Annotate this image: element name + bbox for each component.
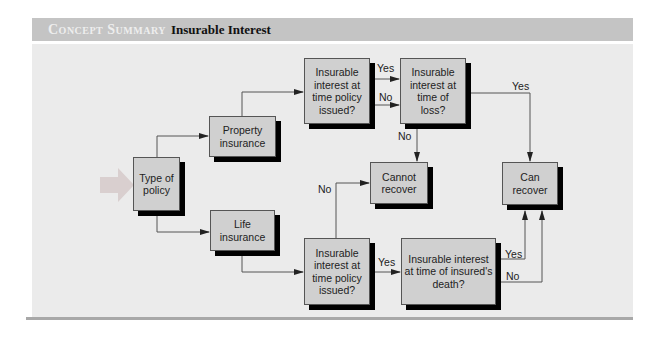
node-label: Insurable interest at time of insured's … [405,253,493,291]
node-label: Property insurance [214,124,272,149]
node-label: Insurable interest at time policy issued… [306,66,368,116]
node-type-of-policy: Type of policy [133,157,180,211]
node-property-issued: Insurable interest at time policy issued… [304,58,370,124]
node-life-insurance: Life insurance [210,210,275,251]
edge-label-prop-no: No [379,91,392,103]
node-label: Insurable interest at time policy issued… [306,247,368,297]
edge-label-life-yes: Yes [378,256,395,268]
node-label: Life insurance [215,218,271,243]
edge-label-prop-yes: Yes [377,62,394,74]
node-label: Can recover [507,171,553,196]
node-property-loss: Insurable interest at time of loss? [400,58,466,124]
node-property-insurance: Property insurance [209,116,276,157]
node-can-recover: Can recover [502,162,558,205]
edge-label-life-no: No [318,183,331,195]
node-life-death: Insurable interest at time of insured's … [401,238,496,305]
node-label: Insurable interest at time of loss? [404,66,462,116]
node-label: Cannot recover [376,171,422,196]
edge-label-death-no: No [506,270,519,282]
edge-label-death-yes: Yes [505,248,522,260]
node-cannot-recover: Cannot recover [370,162,428,204]
edge-label-loss-yes: Yes [512,80,529,92]
edge-label-loss-no: No [398,130,411,142]
node-label: Type of policy [139,172,175,197]
node-life-issued: Insurable interest at time policy issued… [304,238,370,305]
